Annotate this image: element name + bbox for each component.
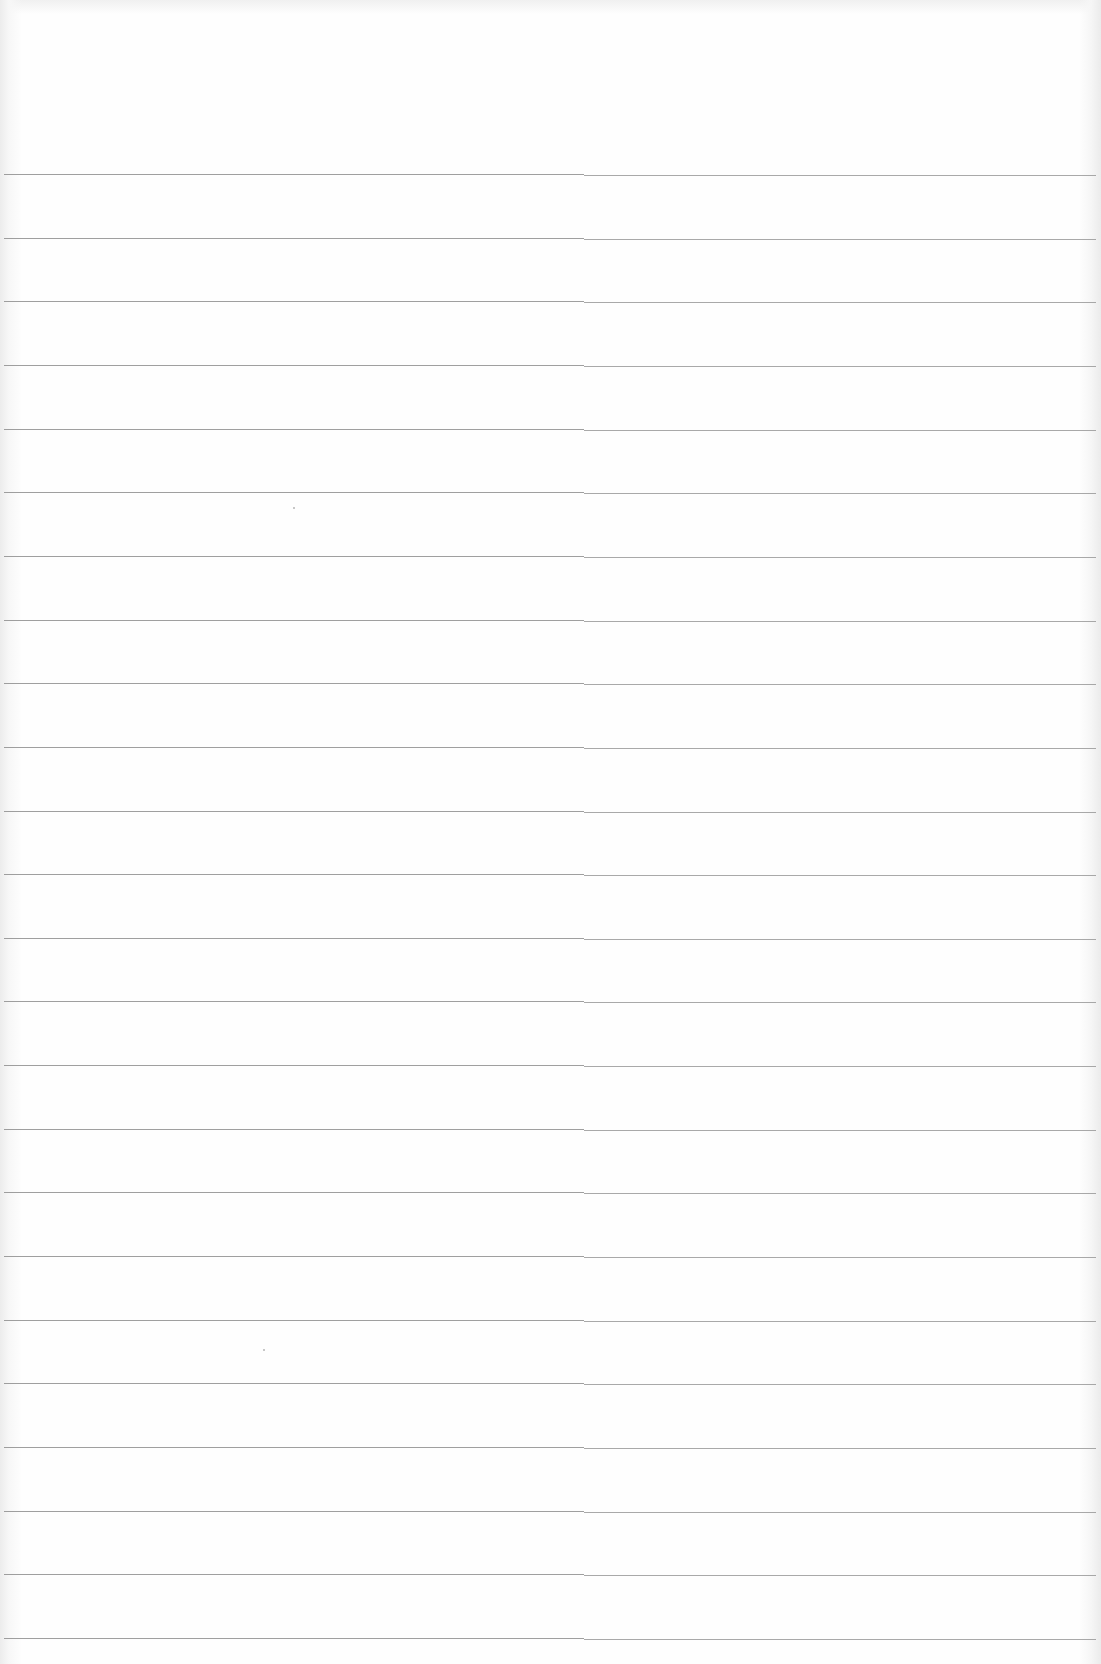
ruled-line-left-segment	[4, 301, 584, 302]
ruled-line	[4, 874, 1096, 875]
ruled-line	[4, 1638, 1096, 1639]
ruled-line-right-segment	[584, 684, 1096, 685]
ruled-line-right-segment	[584, 875, 1096, 876]
paper-speck	[293, 507, 295, 509]
ruled-line-left-segment	[4, 1383, 584, 1384]
ruled-line-left-segment	[4, 1129, 584, 1130]
ruled-line	[4, 938, 1096, 939]
ruled-line	[4, 811, 1096, 812]
ruled-line	[4, 1065, 1096, 1066]
ruled-line	[4, 620, 1096, 621]
ruled-line	[4, 1574, 1096, 1575]
ruled-line-right-segment	[584, 1257, 1096, 1258]
ruled-line-right-segment	[584, 1512, 1096, 1513]
ruled-line	[4, 556, 1096, 557]
ruled-line-left-segment	[4, 1574, 584, 1575]
ruled-line	[4, 747, 1096, 748]
ruled-line-right-segment	[584, 557, 1096, 558]
ruled-line-left-segment	[4, 429, 584, 430]
ruled-line	[4, 1511, 1096, 1512]
ruled-line	[4, 1192, 1096, 1193]
ruled-line-right-segment	[584, 1575, 1096, 1576]
scan-shadow-left	[0, 0, 22, 1664]
ruled-line-right-segment	[584, 748, 1096, 749]
ruled-line	[4, 492, 1096, 493]
ruled-line	[4, 365, 1096, 366]
ruled-line-left-segment	[4, 365, 584, 366]
ruled-line	[4, 1447, 1096, 1448]
ruled-line	[4, 1129, 1096, 1130]
ruled-line-right-segment	[584, 812, 1096, 813]
ruled-sheet	[0, 0, 1101, 1664]
ruled-line-right-segment	[584, 1639, 1096, 1640]
ruled-line-right-segment	[584, 1066, 1096, 1067]
ruled-line-right-segment	[584, 1384, 1096, 1385]
ruled-line-right-segment	[584, 1321, 1096, 1322]
ruled-line-left-segment	[4, 683, 584, 684]
paper-speck	[263, 1349, 265, 1351]
ruled-line-left-segment	[4, 556, 584, 557]
ruled-line-right-segment	[584, 1002, 1096, 1003]
ruled-line-right-segment	[584, 493, 1096, 494]
ruled-line-right-segment	[584, 430, 1096, 431]
ruled-line-left-segment	[4, 811, 584, 812]
ruled-line-left-segment	[4, 620, 584, 621]
ruled-line	[4, 1001, 1096, 1002]
ruled-line	[4, 301, 1096, 302]
ruled-line-left-segment	[4, 238, 584, 239]
ruled-line-right-segment	[584, 939, 1096, 940]
ruled-line-left-segment	[4, 174, 584, 175]
ruled-line	[4, 429, 1096, 430]
ruled-line-left-segment	[4, 874, 584, 875]
ruled-line	[4, 1383, 1096, 1384]
ruled-line-left-segment	[4, 747, 584, 748]
ruled-line-left-segment	[4, 492, 584, 493]
ruled-line-left-segment	[4, 1320, 584, 1321]
ruled-line-right-segment	[584, 366, 1096, 367]
ruled-line-right-segment	[584, 175, 1096, 176]
ruled-line	[4, 238, 1096, 239]
scan-shadow-top	[0, 0, 1101, 14]
ruled-line	[4, 174, 1096, 175]
ruled-line	[4, 1320, 1096, 1321]
ruled-line-left-segment	[4, 1447, 584, 1448]
ruled-line-right-segment	[584, 621, 1096, 622]
ruled-line-right-segment	[584, 1448, 1096, 1449]
ruled-line-right-segment	[584, 1130, 1096, 1131]
ruled-line-left-segment	[4, 1256, 584, 1257]
ruled-line-left-segment	[4, 938, 584, 939]
scan-shadow-right	[1079, 0, 1101, 1664]
ruled-line-left-segment	[4, 1065, 584, 1066]
ruled-line	[4, 1256, 1096, 1257]
ruled-line-right-segment	[584, 302, 1096, 303]
ruled-line	[4, 683, 1096, 684]
ruled-line-left-segment	[4, 1001, 584, 1002]
ruled-line-left-segment	[4, 1511, 584, 1512]
ruled-line-left-segment	[4, 1192, 584, 1193]
ruled-line-right-segment	[584, 239, 1096, 240]
ruled-line-right-segment	[584, 1193, 1096, 1194]
ruled-line-left-segment	[4, 1638, 584, 1639]
